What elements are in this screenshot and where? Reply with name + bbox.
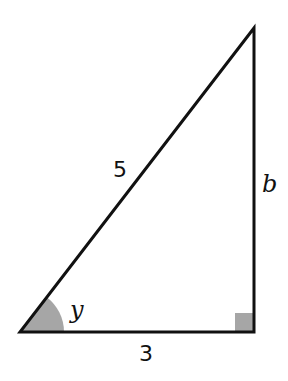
opposite-label: b [262, 170, 277, 198]
right-angle-marker [235, 313, 254, 332]
triangle-diagram: 5 3 b y [0, 0, 288, 381]
angle-label: y [69, 296, 84, 324]
adjacent-label: 3 [139, 341, 153, 366]
triangle [20, 28, 254, 332]
hypotenuse-label: 5 [113, 157, 127, 182]
